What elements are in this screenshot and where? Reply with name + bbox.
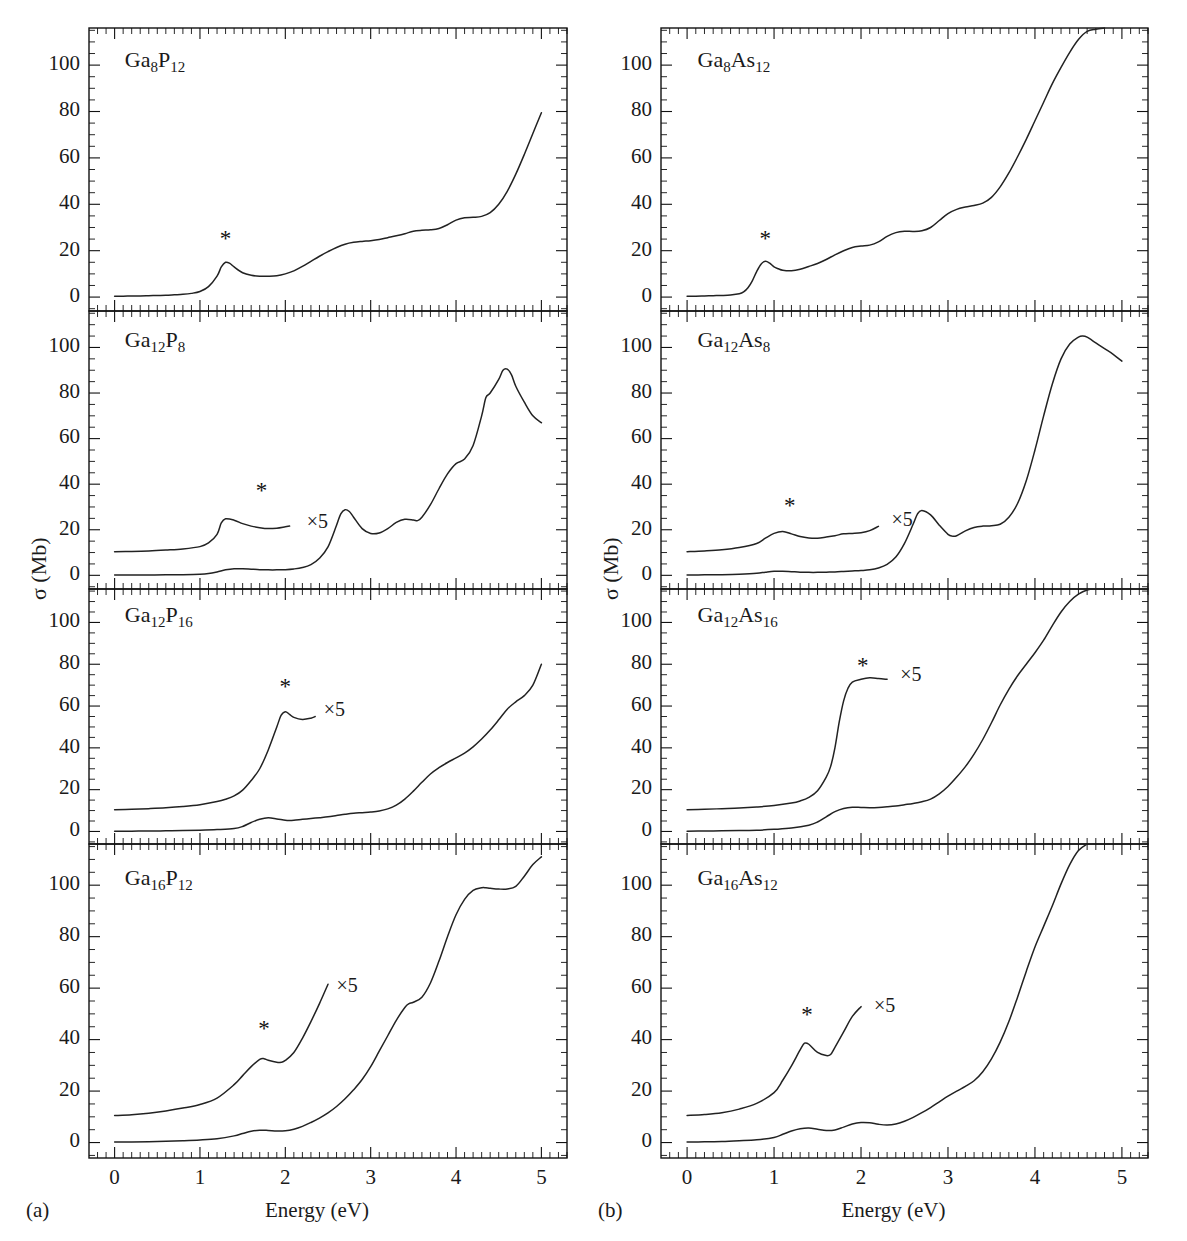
species-label: Ga12As16	[698, 602, 779, 630]
y-axis-title: σ (Mb)	[26, 537, 52, 600]
curve-sigma	[115, 369, 542, 575]
subfigure-label-a: (a)	[26, 1198, 49, 1223]
y-tick-labels: 020406080100	[49, 333, 81, 585]
y-tick-label: 40	[631, 470, 652, 494]
x-tick-label: 2	[280, 1165, 291, 1189]
y-tick-label: 40	[59, 734, 80, 758]
peak-star-marker: *	[760, 226, 772, 251]
y-tick-label: 20	[59, 237, 80, 261]
y-tick-label: 40	[631, 734, 652, 758]
peak-star-marker: *	[220, 226, 232, 251]
peak-star-marker: *	[280, 674, 292, 699]
y-tick-labels: 020406080100	[621, 871, 653, 1152]
y-tick-label: 40	[59, 1025, 80, 1049]
y-tick-label: 20	[59, 775, 80, 799]
peak-star-marker: *	[801, 1002, 813, 1027]
x-tick-label: 1	[195, 1165, 206, 1189]
curve-magnified-x5	[687, 1007, 861, 1116]
y-tick-label: 100	[621, 333, 653, 357]
magnification-label: ×5	[891, 508, 912, 530]
peak-star-marker: *	[857, 653, 869, 678]
y-tick-label: 0	[642, 1128, 653, 1152]
species-label: Ga16P12	[125, 865, 193, 893]
y-tick-label: 0	[70, 283, 81, 307]
x-tick-label: 0	[682, 1165, 693, 1189]
y-tick-label: 100	[49, 51, 81, 75]
species-label: Ga12As8	[698, 327, 771, 355]
plot-panel-Ga12P16: 020406080100Ga12P16*×5	[88, 588, 568, 845]
y-tick-label: 60	[631, 974, 652, 998]
y-tick-label: 100	[621, 871, 653, 895]
y-tick-label: 60	[59, 424, 80, 448]
curves	[115, 369, 542, 575]
y-tick-label: 40	[59, 190, 80, 214]
y-tick-label: 20	[631, 237, 652, 261]
curves	[115, 113, 542, 296]
y-tick-label: 60	[59, 144, 80, 168]
curve-magnified-x5	[687, 526, 878, 551]
curve-magnified-x5	[115, 984, 328, 1115]
species-label: Ga12P8	[125, 327, 185, 355]
x-tick-label: 2	[856, 1165, 867, 1189]
y-tick-label: 20	[631, 775, 652, 799]
y-tick-label: 100	[49, 871, 81, 895]
species-label: Ga8P12	[125, 47, 185, 75]
y-tick-label: 80	[631, 97, 652, 121]
plot-panel-Ga12As8: 020406080100Ga12As8*×5	[660, 310, 1149, 590]
y-tick-label: 60	[59, 692, 80, 716]
x-tick-label: 4	[451, 1165, 462, 1189]
y-tick-label: 20	[59, 1077, 80, 1101]
y-tick-label: 80	[631, 650, 652, 674]
peak-star-marker: *	[258, 1016, 270, 1041]
y-axis-title: σ (Mb)	[598, 537, 624, 600]
y-tick-label: 80	[59, 922, 80, 946]
x-tick-label: 5	[1117, 1165, 1128, 1189]
y-tick-label: 20	[631, 1077, 652, 1101]
magnification-label: ×5	[874, 994, 895, 1016]
curve-sigma	[115, 113, 542, 296]
curve-magnified-x5	[115, 712, 316, 810]
plot-panel-Ga12P8: 020406080100Ga12P8*×5	[88, 310, 568, 590]
magnification-label: ×5	[324, 698, 345, 720]
x-tick-label: 3	[365, 1165, 376, 1189]
y-tick-labels: 020406080100	[49, 608, 81, 841]
y-tick-label: 100	[621, 51, 653, 75]
y-tick-label: 60	[631, 424, 652, 448]
y-tick-label: 40	[631, 190, 652, 214]
y-tick-label: 40	[631, 1025, 652, 1049]
y-tick-labels: 020406080100	[49, 51, 81, 307]
x-axis-title: Energy (eV)	[265, 1198, 369, 1223]
y-tick-label: 0	[642, 817, 653, 841]
x-tick-label: 3	[943, 1165, 954, 1189]
y-tick-labels: 020406080100	[621, 51, 653, 307]
species-label: Ga12P16	[125, 602, 193, 630]
curves	[687, 336, 1122, 575]
x-tick-label: 0	[109, 1165, 120, 1189]
subfigure-label-b: (b)	[598, 1198, 623, 1223]
y-tick-label: 60	[631, 692, 652, 716]
magnification-label: ×5	[337, 974, 358, 996]
y-tick-labels: 020406080100	[49, 871, 81, 1152]
x-axis-title: Energy (eV)	[842, 1198, 946, 1223]
plot-panel-Ga12As16: 020406080100Ga12As16*×5	[660, 588, 1149, 845]
y-tick-label: 100	[621, 608, 653, 632]
species-label: Ga16As12	[698, 865, 778, 893]
curve-sigma	[687, 336, 1122, 575]
species-label: Ga8As12	[698, 47, 771, 75]
curve-magnified-x5	[115, 519, 290, 552]
y-tick-label: 80	[631, 922, 652, 946]
figure-root: 020406080100Ga8P12*020406080100Ga12P8*×5…	[0, 0, 1187, 1241]
y-tick-label: 80	[59, 379, 80, 403]
curves	[115, 664, 542, 831]
y-tick-label: 0	[70, 561, 81, 585]
peak-star-marker: *	[784, 493, 796, 518]
y-tick-label: 0	[642, 561, 653, 585]
peak-star-marker: *	[256, 478, 268, 503]
y-tick-label: 100	[49, 608, 81, 632]
y-tick-label: 80	[59, 650, 80, 674]
x-tick-label: 1	[769, 1165, 780, 1189]
y-tick-label: 0	[70, 817, 81, 841]
plot-panel-Ga8P12: 020406080100Ga8P12*	[88, 27, 568, 312]
x-tick-label: 4	[1030, 1165, 1041, 1189]
y-tick-label: 20	[59, 516, 80, 540]
